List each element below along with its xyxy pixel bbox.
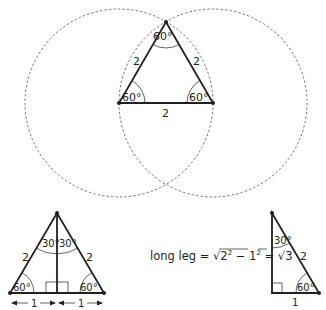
angle-label-top: 60° <box>153 30 173 43</box>
side-label-base: 2 <box>162 107 169 120</box>
angle-label-right: 60° <box>189 91 209 104</box>
short-leg-label: 1 <box>292 297 298 308</box>
vertex-top <box>164 20 168 24</box>
angle-arc-top <box>153 45 179 48</box>
angle-label-top-right: 30° <box>59 238 77 249</box>
right-angle-marker <box>272 283 282 293</box>
vertex <box>270 211 274 215</box>
angle-label-top-left: 30° <box>42 238 60 249</box>
side-label-right: 2 <box>86 251 93 264</box>
side-label-left: 2 <box>133 55 140 68</box>
angle-label-top: 30° <box>274 235 292 246</box>
hypotenuse-label: 2 <box>300 250 307 263</box>
angle-label-bottom-left: 60° <box>13 282 31 293</box>
vertex <box>102 291 106 295</box>
vertex-right <box>211 101 215 105</box>
side-label-left: 2 <box>22 251 29 264</box>
vertex <box>55 211 59 215</box>
angle-label-bottom-right: 60° <box>80 282 98 293</box>
vertex <box>317 291 321 295</box>
diagram-canvas: 60° 60° 60° 2 2 2 30° 30° 60° 60° 2 2 1 … <box>0 0 326 310</box>
side-label-right: 2 <box>193 55 200 68</box>
half-base-label-right: 1 <box>78 298 84 309</box>
vertex-left <box>117 101 121 105</box>
angle-label-left: 60° <box>122 91 142 104</box>
vertex <box>8 291 12 295</box>
half-base-label-left: 1 <box>31 298 37 309</box>
angle-label-bottom: 60° <box>297 282 315 293</box>
